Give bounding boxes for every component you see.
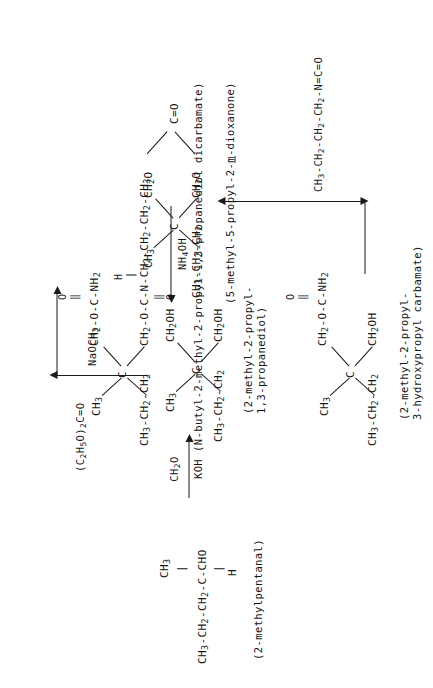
s4-carbamate-double-bond: ‖ xyxy=(296,294,307,300)
s5-carbamate-lower-oxygen: O xyxy=(164,294,175,300)
s1-bond-down: | xyxy=(212,565,224,572)
s5-carbamate-upper-oxygen: O xyxy=(56,294,67,300)
r4-arrow-head-up xyxy=(217,197,225,205)
r1-reagent-above: CH2O xyxy=(168,440,182,498)
s5-amide-hydrogen: H xyxy=(112,274,123,280)
s4-bond-upper-right xyxy=(331,346,349,366)
s1-backbone: CH3‑CH2‑CH2‑C‑CHO xyxy=(196,549,210,664)
r2-arrow-shaft-vertical xyxy=(56,375,148,376)
r2-reagent-above: (C2H5O)2C=O xyxy=(74,403,88,472)
s3-bond-closure-upper xyxy=(146,131,167,154)
s4-bond-upper-left xyxy=(329,377,349,395)
s5-bond-upper-right xyxy=(103,346,121,366)
s5-carbamate-lower-double-bond: ‖ xyxy=(152,294,163,300)
s5-bond-lower-right xyxy=(126,346,144,366)
s5-bond-upper-left xyxy=(101,377,121,395)
s2-propyl: CH3‑CH2‑CH2 xyxy=(212,369,226,442)
s4-methyl: CH3 xyxy=(318,397,332,416)
r2-arrow-shaft-horizontal xyxy=(56,292,57,376)
s3-name: (5-methyl-5-propyl-2-m-dioxanone) xyxy=(224,82,236,304)
s2-name-line2: 1,3-propanediol) xyxy=(255,306,267,414)
s4-name-line2: 3-hydroxypropyl carbamate) xyxy=(411,245,423,420)
r4-arrow-head-down xyxy=(360,197,368,205)
s2-hydroxymethyl-upper: CH2OH xyxy=(164,308,178,342)
s3-carbonyl: C=O xyxy=(168,103,180,124)
s4-carbamate-oxygen: O xyxy=(284,294,295,300)
r4-reagent: CH3‑CH2‑CH2‑CH2‑N=C=O xyxy=(312,57,326,192)
s2-methyl: CH3 xyxy=(164,393,178,412)
reaction-scheme-page: CH3 | CH3‑CH2‑CH2‑C‑CHO | H (2-methylpen… xyxy=(0,0,433,688)
s4-bond-lower-right xyxy=(354,346,372,366)
s5-name: (N-butyl-2-methyl-2-propyl-1,3-propanedi… xyxy=(192,82,204,452)
s4-name-line1: (2-methyl-2-propyl- xyxy=(398,292,410,420)
r3-arrow-shaft xyxy=(170,206,171,296)
s1-bond-up: | xyxy=(175,565,187,572)
s4-propyl: CH3‑CH2‑CH2 xyxy=(366,373,380,446)
r3-reagent: NH4OH xyxy=(176,238,190,270)
r4-arrow-shaft-vertical xyxy=(224,201,366,202)
s5-methyl: CH3 xyxy=(90,397,104,416)
s5-carbamate-upper: CH2‑O‑C‑NH2 xyxy=(88,272,102,346)
s1-hydrogen: H xyxy=(226,569,238,576)
s5-carbamate-upper-double-bond: ‖ xyxy=(68,294,79,300)
s5-propyl: CH3‑CH2‑CH2 xyxy=(138,373,152,446)
s5-carbamate-lower: CH2‑O‑C‑N‑CH2‑CH2‑CH2‑CH3 xyxy=(138,178,152,346)
s2-name-line1: (2-methyl-2-propyl- xyxy=(242,286,254,414)
s1-name: (2-methylpentanal) xyxy=(252,539,264,660)
s5-amide-nh-bond: | xyxy=(124,272,135,278)
s4-hydroxymethyl: CH2OH xyxy=(366,312,380,346)
s4-carbamate-group: CH2‑O‑C‑NH2 xyxy=(316,272,330,346)
r4-arrow-shaft-horizontal xyxy=(364,200,365,274)
s2-hydroxymethyl-lower: CH2OH xyxy=(212,308,226,342)
s1-methyl-substituent: CH3 xyxy=(158,559,172,578)
r1-arrow-shaft xyxy=(188,440,189,498)
